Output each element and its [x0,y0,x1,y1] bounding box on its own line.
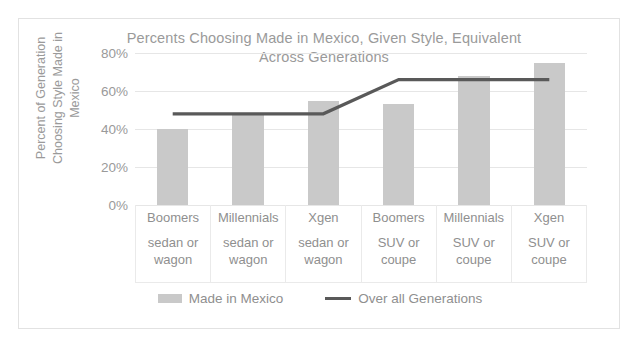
y-axis-title: Percent of Generation Choosing Style Mad… [33,0,91,203]
y-axis-tick-label: 80% [101,46,128,61]
x-axis-category-generation: Boomers [373,209,425,226]
x-axis-category-generation: Boomers [147,209,199,226]
gridline: 40% [135,129,587,130]
x-axis-category-style: SUV or coupe [378,234,420,268]
x-axis-category-style: sedan or wagon [223,234,274,268]
gridline: 20% [135,167,587,168]
chart-title-line-1: Percents Choosing Made in Mexico, Given … [89,29,559,48]
y-axis-title-line-1: Percent of Generation [33,0,50,203]
bar [383,104,415,205]
x-axis-category-generation: Millennials [443,209,504,226]
y-axis-tick-label: 0% [108,198,128,213]
gridline: 60% [135,91,587,92]
x-axis-category-cell: XgenSUV or coupe [511,205,587,283]
x-axis-category-cell: Boomerssedan or wagon [135,205,210,283]
bar [458,76,490,205]
bar [308,101,340,206]
x-axis-category-style: sedan or wagon [298,234,349,268]
x-axis-category-cell: Millennialssedan or wagon [210,205,285,283]
over-all-generations-line [173,80,550,114]
bar [157,129,189,205]
y-axis-tick-label: 20% [101,160,128,175]
line-swatch-icon [325,297,351,300]
y-axis-title-line-2: Choosing Style Made in [50,0,67,203]
plot-area: 0%20%40%60%80% [135,53,587,205]
x-axis-category-generation: Xgen [308,209,338,226]
x-axis-category-style: SUV or coupe [453,234,495,268]
legend-label-made-in-mexico: Made in Mexico [189,291,284,306]
legend-label-over-all-generations: Over all Generations [358,291,482,306]
y-axis-tick-label: 60% [101,84,128,99]
y-axis-tick-label: 40% [101,122,128,137]
x-axis-categories: Boomerssedan or wagonMillennialssedan or… [135,205,587,283]
x-axis-category-style: sedan or wagon [148,234,199,268]
legend-item-made-in-mexico: Made in Mexico [158,291,284,306]
bar-swatch-icon [158,294,182,303]
gridline: 80% [135,53,587,54]
x-axis-category-generation: Xgen [534,209,564,226]
chart-legend: Made in Mexico Over all Generations [19,291,621,306]
legend-item-over-all-generations: Over all Generations [325,291,482,306]
y-axis-title-line-3: Mexico [67,0,84,203]
chart-container: Percents Choosing Made in Mexico, Given … [18,18,620,329]
x-axis-category-cell: MillennialsSUV or coupe [436,205,511,283]
x-axis-category-cell: BoomersSUV or coupe [361,205,436,283]
x-axis-category-generation: Millennials [218,209,279,226]
bar [232,114,264,205]
bar [534,63,566,206]
x-axis-category-cell: Xgensedan or wagon [285,205,360,283]
x-axis-category-style: SUV or coupe [528,234,570,268]
